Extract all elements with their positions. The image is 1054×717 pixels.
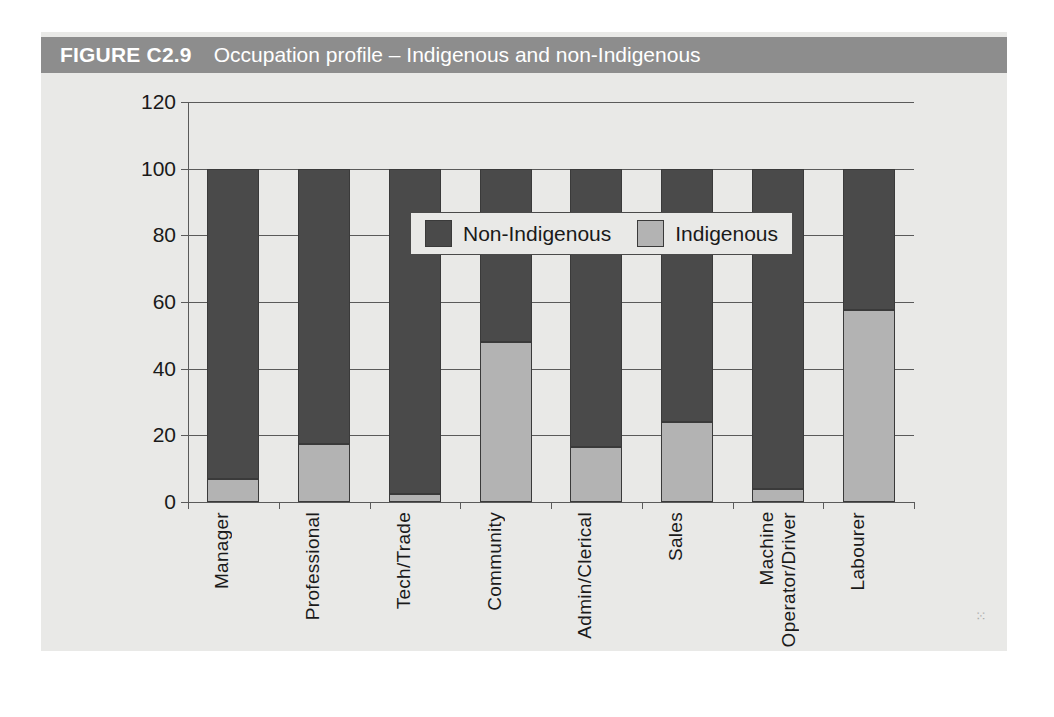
legend-item-non-indigenous: Non-Indigenous (425, 220, 611, 247)
bar-segment-non-indigenous[interactable] (298, 169, 350, 444)
bar-segment-indigenous[interactable] (661, 422, 713, 502)
bar-segment-non-indigenous[interactable] (480, 169, 532, 342)
bar-segment-indigenous[interactable] (298, 444, 350, 502)
bar-segment-indigenous[interactable] (389, 494, 441, 502)
bar-segment-indigenous[interactable] (480, 342, 532, 502)
y-tick-mark-20 (181, 435, 188, 436)
bar-segment-indigenous[interactable] (752, 489, 804, 502)
legend-swatch-non-indigenous (425, 220, 452, 247)
legend-item-indigenous: Indigenous (637, 220, 778, 247)
x-tick-mark (914, 502, 915, 509)
plot-box: 020406080100120 ManagerProfessionalTech/… (188, 102, 914, 502)
bar-segment-non-indigenous[interactable] (661, 169, 713, 422)
figure-title: Occupation profile – Indigenous and non-… (214, 43, 701, 67)
figure-number-label: FIGURE C2.9 (60, 43, 192, 67)
x-tick-mark (642, 502, 643, 509)
bar-group[interactable] (661, 102, 713, 502)
x-axis-label: Admin/Clerical (574, 512, 618, 639)
x-axis-label: Sales (665, 512, 709, 561)
legend-label-non-indigenous: Non-Indigenous (463, 222, 611, 246)
x-axis-label: Labourer (847, 512, 891, 590)
x-axis-label: Professional (302, 512, 346, 620)
bar-segment-indigenous[interactable] (843, 310, 895, 502)
chart-legend: Non-Indigenous Indigenous (410, 212, 793, 255)
y-tick-label-60: 60 (153, 290, 176, 314)
x-tick-mark (460, 502, 461, 509)
bar-group[interactable] (389, 102, 441, 502)
x-axis-label: Manager (211, 512, 255, 589)
bar-segment-non-indigenous[interactable] (570, 169, 622, 447)
y-tick-mark-80 (181, 235, 188, 236)
bar-group[interactable] (480, 102, 532, 502)
y-tick-label-0: 0 (164, 490, 176, 514)
x-axis-label: Community (484, 512, 528, 611)
y-tick-label-100: 100 (141, 157, 176, 181)
bar-segment-non-indigenous[interactable] (843, 169, 895, 311)
bar-group[interactable] (752, 102, 804, 502)
x-tick-mark (733, 502, 734, 509)
scan-artifact: ⁙ (975, 609, 989, 629)
y-tick-mark-40 (181, 369, 188, 370)
x-axis-label: Tech/Trade (393, 512, 437, 609)
y-tick-label-40: 40 (153, 357, 176, 381)
chart-plot-area: 020406080100120 ManagerProfessionalTech/… (41, 73, 1007, 651)
x-tick-mark (188, 502, 189, 509)
bar-segment-indigenous[interactable] (207, 479, 259, 502)
bar-group[interactable] (570, 102, 622, 502)
x-tick-mark (370, 502, 371, 509)
y-tick-mark-60 (181, 302, 188, 303)
legend-label-indigenous: Indigenous (675, 222, 778, 246)
y-tick-mark-0 (181, 502, 188, 503)
x-tick-mark (551, 502, 552, 509)
x-tick-mark (823, 502, 824, 509)
x-axis-label: Machine Operator/Driver (756, 512, 800, 647)
bar-segment-non-indigenous[interactable] (207, 169, 259, 479)
figure-header-bar: FIGURE C2.9 Occupation profile – Indigen… (41, 37, 1007, 73)
bar-group[interactable] (207, 102, 259, 502)
y-tick-mark-120 (181, 102, 188, 103)
figure-panel: FIGURE C2.9 Occupation profile – Indigen… (41, 32, 1007, 651)
bar-group[interactable] (298, 102, 350, 502)
bar-segment-indigenous[interactable] (570, 447, 622, 502)
y-tick-label-120: 120 (141, 90, 176, 114)
y-tick-label-80: 80 (153, 223, 176, 247)
bar-group[interactable] (843, 102, 895, 502)
y-tick-mark-100 (181, 169, 188, 170)
bars-layer (188, 102, 914, 502)
x-tick-mark (279, 502, 280, 509)
y-tick-label-20: 20 (153, 423, 176, 447)
legend-swatch-indigenous (637, 220, 664, 247)
